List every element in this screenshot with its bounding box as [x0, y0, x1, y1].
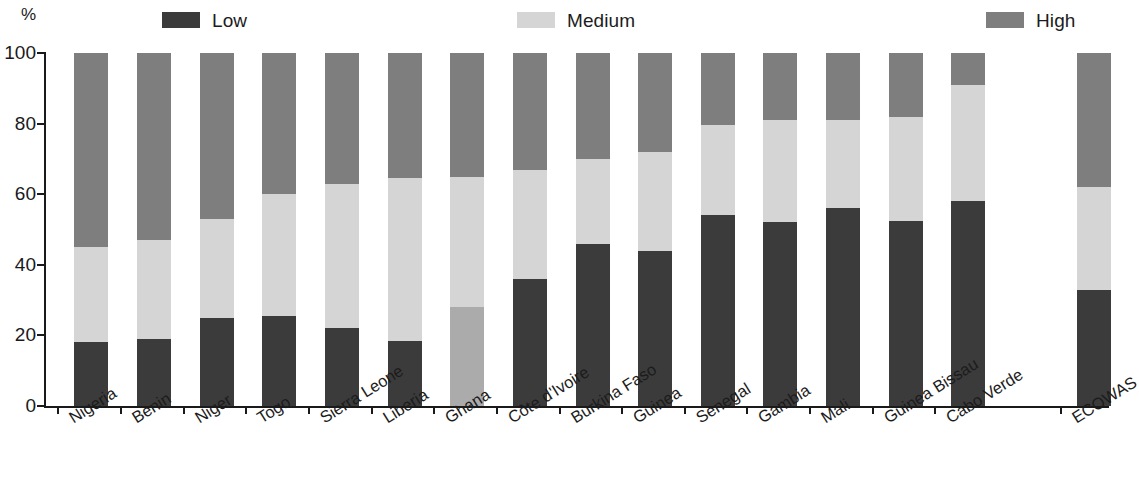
bar-segment-high: [262, 53, 296, 194]
legend-swatch-low: [162, 12, 200, 28]
bar-group[interactable]: [388, 53, 422, 406]
bar-segment-medium: [763, 120, 797, 222]
bar-segment-low: [200, 318, 234, 406]
bar-segment-medium: [388, 178, 422, 340]
bar-segment-high: [137, 53, 171, 240]
bar-segment-high: [325, 53, 359, 184]
bar-segment-low: [763, 222, 797, 406]
bar-segment-high: [388, 53, 422, 178]
bar-group[interactable]: [325, 53, 359, 406]
bar-segment-medium: [325, 184, 359, 329]
bar-group[interactable]: [450, 53, 484, 406]
bar-group[interactable]: [576, 53, 610, 406]
bar-group[interactable]: [638, 53, 672, 406]
bar-group[interactable]: [74, 53, 108, 406]
y-tick-label-80: 80: [15, 114, 36, 133]
bar-group[interactable]: [200, 53, 234, 406]
bar-group[interactable]: [137, 53, 171, 406]
bar-segment-medium: [450, 177, 484, 308]
bar-group[interactable]: [826, 53, 860, 406]
x-axis-labels: NigeriaBeninNigerTogoSierra LeoneLiberia…: [0, 406, 1121, 498]
bar-segment-medium: [951, 85, 985, 201]
y-tick-label-100: 100: [4, 43, 36, 62]
bar-series-container: [44, 53, 1109, 406]
bar-segment-medium: [513, 170, 547, 279]
plot-area: [44, 53, 1109, 406]
bar-segment-medium: [889, 117, 923, 221]
bar-segment-high: [576, 53, 610, 159]
bar-group[interactable]: [763, 53, 797, 406]
bar-segment-high: [951, 53, 985, 85]
bar-segment-low: [262, 316, 296, 406]
bar-group[interactable]: [701, 53, 735, 406]
bar-segment-high: [763, 53, 797, 120]
y-tick-label-40: 40: [15, 255, 36, 274]
bar-segment-medium: [576, 159, 610, 244]
bar-segment-high: [200, 53, 234, 219]
bar-segment-medium: [1077, 187, 1111, 289]
legend-item-low[interactable]: Low: [162, 6, 247, 34]
bar-segment-low: [826, 208, 860, 406]
bar-segment-medium: [74, 247, 108, 342]
bar-segment-medium: [638, 152, 672, 251]
legend-swatch-high: [986, 12, 1024, 28]
bar-segment-high: [450, 53, 484, 177]
bar-segment-medium: [200, 219, 234, 318]
bar-group[interactable]: [889, 53, 923, 406]
bar-segment-medium: [701, 125, 735, 215]
bar-segment-high: [74, 53, 108, 247]
bar-group[interactable]: [1077, 53, 1111, 406]
bar-segment-high: [1077, 53, 1111, 187]
y-axis-unit-label: %: [21, 6, 36, 23]
chart-legend: Low Medium High: [0, 6, 1121, 34]
bar-segment-high: [889, 53, 923, 117]
bar-segment-medium: [826, 120, 860, 208]
legend-swatch-medium: [517, 12, 555, 28]
bar-segment-high: [513, 53, 547, 169]
bar-segment-low: [701, 215, 735, 406]
legend-item-high[interactable]: High: [986, 6, 1075, 34]
legend-label-high: High: [1036, 11, 1075, 30]
legend-label-medium: Medium: [567, 11, 635, 30]
y-tick-label-20: 20: [15, 325, 36, 344]
bar-segment-high: [826, 53, 860, 120]
bar-group[interactable]: [951, 53, 985, 406]
bar-group[interactable]: [513, 53, 547, 406]
legend-label-low: Low: [212, 11, 247, 30]
y-tick-label-60: 60: [15, 184, 36, 203]
bar-group[interactable]: [262, 53, 296, 406]
bar-segment-high: [638, 53, 672, 152]
bar-segment-high: [701, 53, 735, 125]
legend-item-medium[interactable]: Medium: [517, 6, 635, 34]
bar-segment-low: [889, 221, 923, 406]
bar-segment-medium: [262, 194, 296, 316]
bar-segment-medium: [137, 240, 171, 339]
